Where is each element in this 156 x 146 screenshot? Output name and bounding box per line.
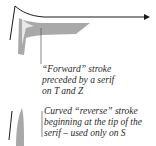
callout-reverse-stroke: Curved “reverse” stroke beginning at the…: [44, 106, 142, 139]
arrow-head-icon: [144, 14, 150, 20]
callout-line: preceded by a serif: [42, 75, 114, 86]
reverse-stroke-shape: [16, 108, 24, 146]
callout-line: serif – used only on S: [44, 128, 142, 139]
callout-line: on T and Z: [42, 86, 114, 97]
callout-line: Curved “reverse” stroke: [44, 106, 142, 117]
forward-stroke-shape: [18, 18, 90, 55]
reverse-stroke-outline: [9, 111, 12, 140]
callout-line: “Forward” stroke: [42, 64, 114, 75]
callout-forward-stroke: “Forward” stroke preceded by a serif on …: [42, 64, 114, 97]
callout-line: beginning at the tip of the: [44, 117, 142, 128]
